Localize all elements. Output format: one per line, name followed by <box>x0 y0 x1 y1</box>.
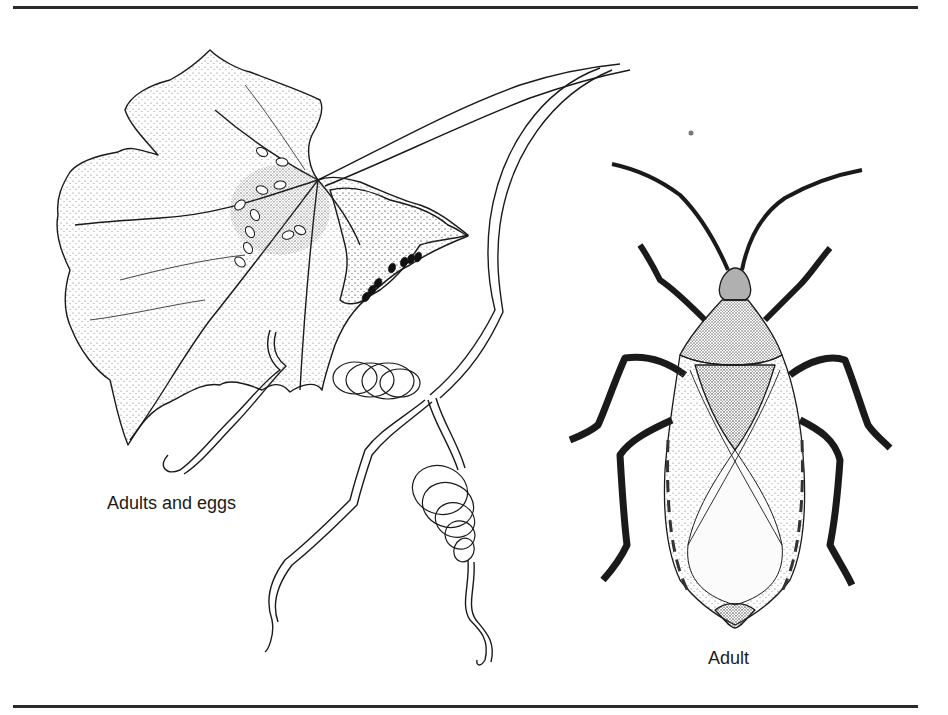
main-stem <box>318 64 620 180</box>
bug-abdomen-tip <box>715 604 755 628</box>
leg-front-left <box>640 245 705 320</box>
leg-hind-left <box>603 420 672 580</box>
illustration <box>0 0 948 715</box>
leaf-curl <box>330 188 468 304</box>
caption-adult: Adult <box>708 648 749 669</box>
tendril-tail <box>465 560 486 665</box>
leg-mid-right <box>790 358 890 448</box>
tendril-coil <box>333 362 420 399</box>
adult-bug-drawing <box>570 164 890 628</box>
bottom-rule <box>13 705 918 708</box>
tendril-long <box>276 402 432 622</box>
leg-hind-right <box>800 420 852 585</box>
tendril-right <box>428 400 458 470</box>
antenna-right <box>742 170 862 270</box>
caption-adults-and-eggs: Adults and eggs <box>107 493 236 514</box>
stray-dot <box>689 131 694 136</box>
leg-mid-left <box>570 357 685 440</box>
leg-front-right <box>765 248 830 320</box>
antenna-left <box>612 164 728 270</box>
leaf-drawing <box>57 50 630 665</box>
bug-head <box>719 268 751 300</box>
main-stem <box>325 70 630 186</box>
tendril-long <box>265 400 425 652</box>
tendril-right <box>436 398 465 468</box>
tendril-coil <box>405 458 479 565</box>
tendril-tail <box>471 562 492 662</box>
